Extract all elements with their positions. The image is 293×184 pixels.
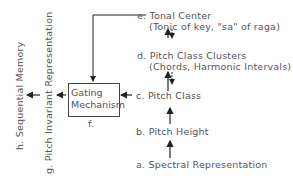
gating-label-line2: Mechanism [71,99,125,110]
gating-mechanism-box: Gating Mechanism [68,83,120,117]
level-d-label: d. Pitch Class Clusters [137,50,247,61]
level-c-label: c. Pitch Class [136,90,201,101]
level-e-label: e. Tonal Center [137,10,211,21]
gating-label-line1: Gating [71,87,103,98]
level-e-sublabel: (Tonic of key, "sa" of raga) [149,21,280,32]
output-g-label: g. Pitch Invariant Representation [43,12,54,174]
output-h-label: h. Sequential Memory [14,42,25,150]
gating-tag: f. [88,118,94,129]
level-b-label: b. Pitch Height [136,126,209,137]
level-a-label: a. Spectral Representation [136,159,267,170]
level-d-sublabel: (Chords, Harmonic Intervals) [149,61,291,72]
